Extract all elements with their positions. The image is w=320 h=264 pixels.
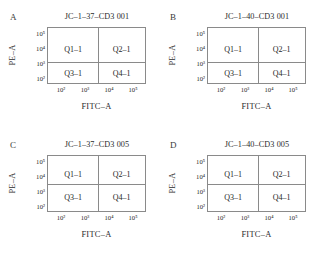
quadrant-label-q1-1: Q1–1 [64, 44, 82, 53]
x-axis-tick-label: 10² [217, 214, 226, 222]
panel-letter: C [10, 141, 16, 150]
x-axis-ticks: 10²10³10⁴10⁵ [207, 86, 306, 96]
x-axis-tick-label: 10⁵ [129, 214, 138, 222]
x-axis-label: FITC–A [207, 230, 306, 240]
x-axis-tick-label: 10⁵ [289, 86, 298, 94]
y-axis-tick-label: 10³ [36, 60, 45, 67]
panel-letter: A [10, 13, 17, 22]
x-axis-tick-label: 10³ [81, 86, 90, 94]
quadrant-label-q3-1: Q3–1 [224, 193, 242, 202]
x-axis-label: FITC–A [47, 230, 146, 240]
y-axis-tick-label: 10⁴ [36, 173, 45, 180]
y-axis-tick-label: 10³ [36, 188, 45, 195]
x-axis-tick-label: 10³ [241, 86, 250, 94]
y-axis-ticks: 10⁵10⁴10³10² [188, 155, 205, 212]
y-axis-tick-label: 10⁵ [196, 158, 205, 165]
y-axis-tick-label: 10⁴ [196, 45, 205, 52]
x-axis-tick-label: 10⁵ [129, 86, 138, 94]
x-axis-tick-label: 10² [217, 86, 226, 94]
y-axis-label: PE–A [8, 44, 17, 65]
x-axis-tick-label: 10³ [241, 214, 250, 222]
plot-area[interactable]: Q1–1Q2–1Q3–1Q4–1 [207, 27, 306, 84]
quadrant-divider-vertical[interactable] [258, 28, 259, 83]
x-axis-ticks: 10²10³10⁴10⁵ [47, 86, 146, 96]
quadrant-divider-horizontal[interactable] [48, 184, 145, 185]
plot-area[interactable]: Q1–1Q2–1Q3–1Q4–1 [207, 155, 306, 212]
y-axis-label: PE–A [168, 44, 177, 65]
quadrant-label-q2-1: Q2–1 [273, 44, 291, 53]
quadrant-label-q1-1: Q1–1 [224, 169, 242, 178]
y-axis-tick-label: 10⁵ [36, 158, 45, 165]
panel-title: JC–1–37–CD3 001 [38, 12, 156, 22]
quadrant-label-q4-1: Q4–1 [273, 68, 291, 77]
x-axis-tick-label: 10⁵ [289, 214, 298, 222]
quadrant-divider-horizontal[interactable] [208, 184, 305, 185]
quadrant-label-q4-1: Q4–1 [273, 193, 291, 202]
quadrant-divider-vertical[interactable] [98, 28, 99, 83]
quadrant-label-q1-1: Q1–1 [224, 44, 242, 53]
quadrant-label-q3-1: Q3–1 [64, 193, 82, 202]
x-axis-ticks: 10²10³10⁴10⁵ [207, 214, 306, 224]
y-axis-tick-label: 10² [196, 75, 205, 82]
y-axis-tick-label: 10³ [196, 60, 205, 67]
panel-grid: AJC–1–37–CD3 00110⁵10⁴10³10²Q1–1Q2–1Q3–1… [0, 6, 320, 264]
y-axis-tick-label: 10² [196, 203, 205, 210]
panel-title: JC–1–40–CD3 001 [198, 12, 316, 22]
panel-a: AJC–1–37–CD3 00110⁵10⁴10³10²Q1–1Q2–1Q3–1… [0, 6, 160, 134]
panel-b: BJC–1–40–CD3 00110⁵10⁴10³10²Q1–1Q2–1Q3–1… [160, 6, 320, 134]
y-axis-ticks: 10⁵10⁴10³10² [28, 155, 45, 212]
x-axis-tick-label: 10⁴ [105, 86, 114, 94]
y-axis-tick-label: 10⁴ [196, 173, 205, 180]
quadrant-label-q2-1: Q2–1 [113, 44, 131, 53]
y-axis-tick-label: 10³ [196, 188, 205, 195]
x-axis-label: FITC–A [207, 102, 306, 112]
y-axis-tick-label: 10⁵ [36, 30, 45, 37]
quadrant-label-q4-1: Q4–1 [113, 68, 131, 77]
panel-letter: D [170, 141, 177, 150]
panel-title: JC–1–37–CD3 005 [38, 140, 156, 150]
quadrant-label-q3-1: Q3–1 [64, 68, 82, 77]
quadrant-label-q4-1: Q4–1 [113, 193, 131, 202]
y-axis-label: PE–A [168, 172, 177, 193]
quadrant-divider-horizontal[interactable] [208, 62, 305, 63]
quadrant-label-q1-1: Q1–1 [64, 169, 82, 178]
quadrant-label-q2-1: Q2–1 [113, 169, 131, 178]
quadrant-divider-horizontal[interactable] [48, 62, 145, 63]
panel-letter: B [170, 13, 176, 22]
x-axis-tick-label: 10² [57, 86, 66, 94]
plot-area[interactable]: Q1–1Q2–1Q3–1Q4–1 [47, 27, 146, 84]
x-axis-tick-label: 10⁴ [105, 214, 114, 222]
quadrant-label-q2-1: Q2–1 [273, 169, 291, 178]
clipped-header-text [28, 0, 148, 5]
panel-c: CJC–1–37–CD3 00510⁵10⁴10³10²Q1–1Q2–1Q3–1… [0, 134, 160, 262]
y-axis-tick-label: 10⁴ [36, 45, 45, 52]
x-axis-tick-label: 10³ [81, 214, 90, 222]
x-axis-tick-label: 10⁴ [265, 86, 274, 94]
x-axis-ticks: 10²10³10⁴10⁵ [47, 214, 146, 224]
panel-title: JC–1–40–CD3 005 [198, 140, 316, 150]
y-axis-tick-label: 10² [36, 203, 45, 210]
plot-area[interactable]: Q1–1Q2–1Q3–1Q4–1 [47, 155, 146, 212]
x-axis-tick-label: 10⁴ [265, 214, 274, 222]
y-axis-ticks: 10⁵10⁴10³10² [28, 27, 45, 84]
quadrant-label-q3-1: Q3–1 [224, 68, 242, 77]
y-axis-ticks: 10⁵10⁴10³10² [188, 27, 205, 84]
y-axis-tick-label: 10² [36, 75, 45, 82]
y-axis-label: PE–A [8, 172, 17, 193]
x-axis-label: FITC–A [47, 102, 146, 112]
x-axis-tick-label: 10² [57, 214, 66, 222]
y-axis-tick-label: 10⁵ [196, 30, 205, 37]
panel-d: DJC–1–40–CD3 00510⁵10⁴10³10²Q1–1Q2–1Q3–1… [160, 134, 320, 262]
